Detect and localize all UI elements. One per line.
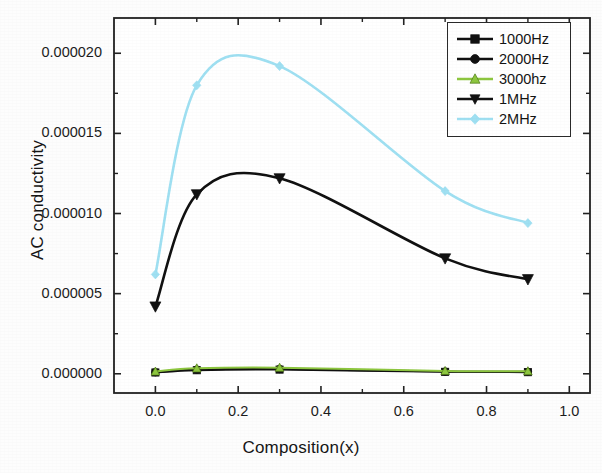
x-axis-title: Composition(x) [0,438,602,458]
legend-label: 1000Hz [499,31,549,47]
x-tick-label: 0.8 [457,403,517,419]
legend-item-3000hz: 3000hz [455,69,563,89]
marker-square [471,35,479,43]
legend-label: 2000Hz [499,51,549,67]
legend-swatch-triangle-up-icon [455,70,495,88]
x-tick-label: 0.2 [208,403,268,419]
y-tick-label: 0.000005 [0,285,102,301]
marker-diamond [470,114,480,125]
legend-label: 3000hz [499,71,547,87]
legend-swatch-triangle-down-icon [455,90,495,108]
legend-swatch-diamond-icon [455,110,495,128]
legend-item-1mhz: 1MHz [455,89,563,109]
chart-figure: AC conductivity Composition(x) 0.0000000… [0,0,602,473]
legend-swatch-square-icon [455,30,495,48]
x-tick-label: 0.0 [125,403,185,419]
legend-item-2mhz: 2MHz [455,109,563,129]
x-tick-label: 1.0 [539,403,599,419]
legend-item-1000hz: 1000Hz [455,29,563,49]
y-tick-label: 0.000010 [0,205,102,221]
y-tick-label: 0.000000 [0,365,102,381]
y-tick-label: 0.000020 [0,44,102,60]
legend-swatch-circle-icon [455,50,495,68]
legend-label: 1MHz [499,91,537,107]
legend-label: 2MHz [499,111,537,127]
marker-circle [471,55,480,64]
x-tick-label: 0.4 [291,403,351,419]
legend-item-2000hz: 2000Hz [455,49,563,69]
legend: 1000Hz2000Hz3000hz1MHz2MHz [447,22,571,137]
x-tick-label: 0.6 [374,403,434,419]
y-tick-label: 0.000015 [0,124,102,140]
